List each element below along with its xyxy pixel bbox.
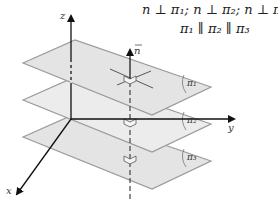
plane-label-pi1: π₁	[186, 78, 197, 88]
perpendicular-relations: n ⊥ π₁; n ⊥ π₂; n ⊥ π₃	[142, 2, 278, 17]
plane-label-pi3: π₃	[186, 152, 197, 162]
plane-label-pi2: π₂	[186, 115, 197, 125]
normal-vector-label: n	[134, 45, 140, 56]
x-axis-label: x	[6, 185, 12, 196]
y-axis-label: y	[227, 122, 234, 133]
parallel-relations: π₁ ∥ π₂ ∥ π₃	[180, 21, 250, 36]
z-axis-label: z	[59, 10, 66, 21]
